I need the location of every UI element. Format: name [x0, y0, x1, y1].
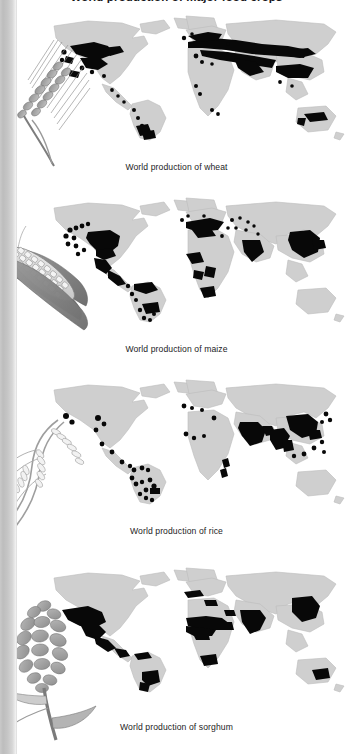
maize-ear-illustration	[0, 218, 96, 338]
figure-page: World production of major food crops	[0, 0, 353, 754]
panel-wheat: World production of wheat	[0, 14, 353, 192]
panel-maize: World production of maize	[0, 196, 353, 374]
rice-panicle-illustration	[0, 414, 100, 534]
caption-maize: World production of maize	[0, 344, 353, 354]
panel-rice: World production of rice	[0, 378, 353, 556]
page-gutter-seam	[16, 0, 17, 754]
page-title: World production of major food crops	[0, 0, 353, 3]
panel-sorghum: World production of sorghum	[0, 566, 353, 754]
